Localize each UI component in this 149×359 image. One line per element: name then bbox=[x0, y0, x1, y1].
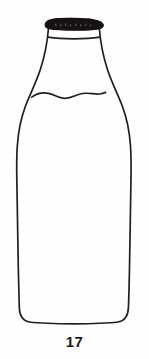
figure-number-caption: 17 bbox=[0, 333, 149, 351]
bottle-illustration bbox=[0, 0, 149, 359]
figure-root: 17 bbox=[0, 0, 149, 359]
page-background bbox=[0, 0, 149, 359]
